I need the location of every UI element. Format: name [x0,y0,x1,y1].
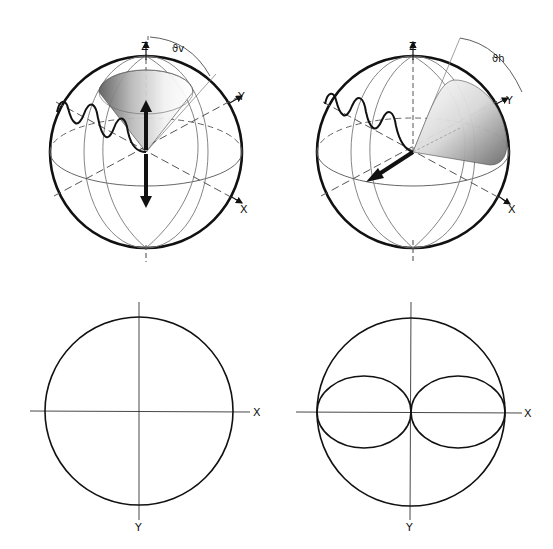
x-axis [30,411,250,412]
dipole-arrow [376,152,413,176]
z-axis-label: Z [409,40,417,53]
x-axis [296,412,522,413]
y-axis-label: Y [134,521,142,534]
horizontal-dipole-sphere: Z Y X ϑh [317,38,522,262]
angle-label-v: ϑv [172,43,184,54]
horizontal-projection: X Y [296,302,532,534]
angle-label-h: ϑh [492,53,505,64]
dipole-radiation-diagram: Z Y X ϑv Z Y X [0,0,553,549]
x-axis-label: X [253,406,261,419]
x-axis-arrow [230,196,242,203]
z-axis-label: Z [141,40,149,53]
y-axis-label: Y [237,90,245,103]
x-axis-label: X [240,203,248,216]
emission-cone [413,80,507,165]
lobe-right [411,376,505,448]
vertical-dipole-sphere: Z Y X ϑv [50,36,248,262]
meridian-2 [370,56,413,248]
x-axis-label: X [524,407,532,420]
y-axis-label: Y [405,521,413,534]
x-axis-label: X [508,203,516,216]
dipole-arrowhead-down [140,196,152,208]
y-axis-label: Y [505,94,513,107]
vertical-projection: X Y [30,302,261,534]
